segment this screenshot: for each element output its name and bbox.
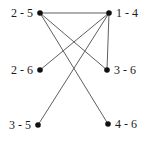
graph-svg: 2 - 51 - 42 - 63 - 63 - 54 - 6 <box>0 0 149 142</box>
node-label-1-4: 1 - 4 <box>116 6 138 20</box>
node-label-3-5: 3 - 5 <box>9 118 31 132</box>
node-label-4-6: 4 - 6 <box>115 117 137 131</box>
graph-diagram: 2 - 51 - 42 - 63 - 63 - 54 - 6 <box>0 0 149 142</box>
node-label-2-5: 2 - 5 <box>11 6 33 20</box>
node-label-3-6: 3 - 6 <box>114 63 136 77</box>
node-1-4 <box>106 10 112 16</box>
node-3-6 <box>104 67 110 73</box>
node-2-5 <box>37 10 43 16</box>
node-3-5 <box>35 122 41 128</box>
node-4-6 <box>105 121 111 127</box>
node-2-6 <box>37 67 43 73</box>
edge-1-4--3-6 <box>107 13 109 70</box>
node-label-2-6: 2 - 6 <box>11 63 33 77</box>
